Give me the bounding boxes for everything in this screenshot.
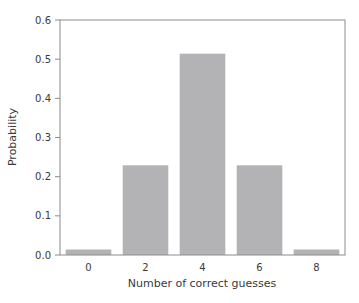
bar-6	[237, 165, 283, 255]
bars-group	[66, 54, 340, 255]
bar-4	[180, 54, 226, 255]
bar-chart: 0.00.10.20.30.40.50.6 02468 Number of co…	[0, 0, 359, 303]
y-axis-label: Probability	[6, 107, 19, 166]
x-tick-label: 0	[85, 262, 91, 273]
y-tick-label: 0.5	[35, 54, 51, 65]
x-tick-label: 6	[256, 262, 262, 273]
y-tick-label: 0.2	[35, 171, 51, 182]
bar-0	[66, 250, 112, 256]
y-tick-label: 0.4	[35, 93, 51, 104]
y-tick-label: 0.1	[35, 210, 51, 221]
bar-2	[123, 165, 169, 255]
x-tick-label: 4	[199, 262, 205, 273]
x-tick-label: 8	[313, 262, 319, 273]
x-axis-label: Number of correct guesses	[128, 277, 277, 290]
bar-8	[294, 250, 340, 256]
x-axis: 02468	[85, 262, 319, 273]
y-tick-label: 0.3	[35, 132, 51, 143]
x-tick-label: 2	[142, 262, 148, 273]
y-axis: 0.00.10.20.30.40.50.6	[35, 15, 60, 261]
y-tick-label: 0.6	[35, 15, 51, 26]
y-tick-label: 0.0	[35, 250, 51, 261]
